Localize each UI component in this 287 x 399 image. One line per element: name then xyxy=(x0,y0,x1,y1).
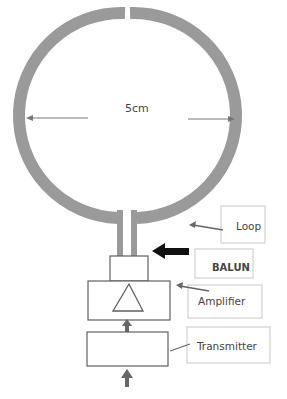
feed-line-left xyxy=(117,210,123,257)
loop-ring xyxy=(19,13,236,218)
amplifier-box xyxy=(88,281,170,320)
label-amplifier: Amplifier xyxy=(176,282,262,318)
transmitter-box xyxy=(87,332,168,366)
svg-text:Transmitter: Transmitter xyxy=(196,340,258,352)
label-balun: BALUN xyxy=(195,249,253,278)
svg-text:Loop: Loop xyxy=(236,220,262,232)
balun-pointer-arrow xyxy=(152,243,189,259)
feed-line-right xyxy=(131,210,137,257)
label-loop: Loop xyxy=(189,206,265,243)
label-transmitter: Transmitter xyxy=(170,327,270,363)
balun-box xyxy=(110,256,148,281)
dimension-label: 5cm xyxy=(125,102,149,115)
diameter-arrow-left xyxy=(26,115,88,121)
svg-text:Amplifier: Amplifier xyxy=(198,295,246,307)
up-arrow-tx-to-amp xyxy=(122,319,132,333)
diameter-arrow-right xyxy=(188,116,235,122)
input-arrow xyxy=(121,369,133,387)
svg-text:BALUN: BALUN xyxy=(212,262,250,273)
loop-antenna-diagram: 5cm Loop BALUN Amplifier Transmitter xyxy=(0,0,287,399)
